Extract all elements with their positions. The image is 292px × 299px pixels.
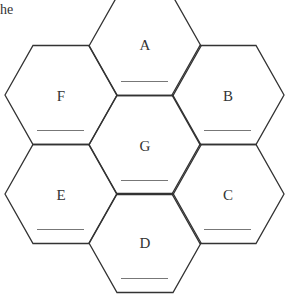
hexagon-diagram: he A B C D E F G bbox=[0, 0, 292, 299]
hex-label-c: C bbox=[223, 187, 233, 204]
hex-label-b: B bbox=[223, 88, 233, 105]
hex-label-f: F bbox=[57, 88, 65, 105]
hex-label-d: D bbox=[140, 235, 151, 252]
hex-label-e: E bbox=[56, 187, 65, 204]
hex-label-g: G bbox=[140, 138, 151, 155]
hex-label-a: A bbox=[140, 37, 151, 54]
